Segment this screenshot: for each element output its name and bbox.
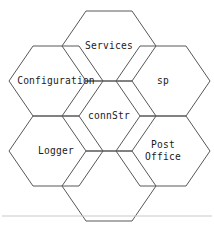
hexagon-grid — [0, 0, 214, 232]
diagram-canvas: ServicesConfigurationspconnStrLoggerPost… — [0, 0, 214, 232]
